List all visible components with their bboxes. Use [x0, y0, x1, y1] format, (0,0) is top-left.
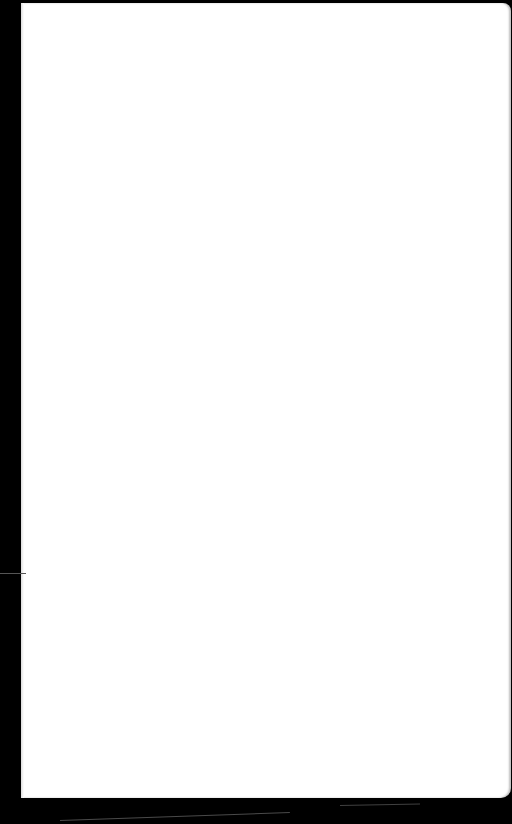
photo-stage — [0, 0, 512, 824]
blank-sheet — [21, 3, 511, 798]
surface-reflection — [340, 804, 420, 806]
background-line — [0, 573, 26, 574]
surface-reflection — [60, 812, 290, 821]
sheet-edge-shadow — [21, 3, 24, 798]
